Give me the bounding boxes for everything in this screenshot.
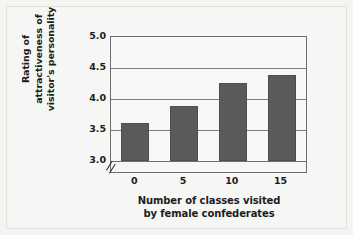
x-axis-title-line-1: Number of classes visited bbox=[85, 194, 333, 207]
x-axis-title-line-2: by female confederates bbox=[85, 207, 333, 220]
y-tick-label-3.0: 3.0 bbox=[72, 155, 106, 165]
bar-15 bbox=[268, 75, 296, 161]
x-tick-label-0: 0 bbox=[114, 175, 154, 186]
y-axis-title-line-1: Rating of bbox=[20, 7, 33, 111]
y-axis-title-line-3: visitor's personality bbox=[45, 7, 58, 111]
x-axis-tick-labels: 051015 bbox=[110, 175, 307, 189]
y-axis-title-text: Rating of attractiveness of visitor's pe… bbox=[20, 7, 58, 111]
x-tick-label-15: 15 bbox=[261, 175, 301, 186]
y-tick-label-3.5: 3.5 bbox=[72, 124, 106, 134]
y-axis-title-line-2: attractiveness of bbox=[33, 7, 46, 111]
plot-area bbox=[110, 36, 307, 162]
chart-card: Rating of attractiveness of visitor's pe… bbox=[6, 6, 347, 229]
x-tick-label-10: 10 bbox=[212, 175, 252, 186]
y-tick-label-5.0: 5.0 bbox=[72, 31, 106, 41]
bar-10 bbox=[219, 83, 247, 161]
bar-5 bbox=[170, 106, 198, 161]
y-tick-label-4.0: 4.0 bbox=[72, 93, 106, 103]
y-axis-title: Rating of attractiveness of visitor's pe… bbox=[7, 0, 71, 129]
bar-0 bbox=[121, 123, 149, 161]
axis-break-icon bbox=[103, 159, 119, 173]
gridline-4.5 bbox=[111, 68, 306, 69]
x-tick-label-5: 5 bbox=[163, 175, 203, 186]
x-axis-title: Number of classes visited by female conf… bbox=[85, 194, 333, 220]
y-tick-label-4.5: 4.5 bbox=[72, 62, 106, 72]
axis-below-break bbox=[110, 162, 307, 173]
figure-canvas: Rating of attractiveness of visitor's pe… bbox=[0, 0, 353, 235]
